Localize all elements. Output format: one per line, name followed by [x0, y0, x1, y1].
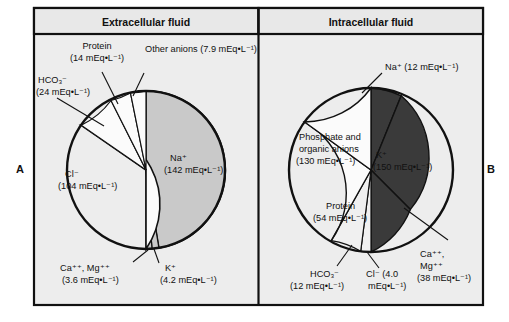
label-a-protein-line2: (14 mEq•L⁻¹) [70, 53, 124, 63]
label-b-phos-line2: organic anions [299, 144, 359, 154]
label-b-hco3-line2: (12 mEq•L⁻¹) [290, 281, 344, 291]
label-b-protein-line2: (54 mEq•L⁻¹) [313, 213, 367, 223]
label-a-camg-line1: Ca⁺⁺, Mg⁺⁺ [60, 263, 110, 273]
body-fluid-composition-figure: Extracellular fluid Intracellular fluid [0, 0, 509, 322]
label-b-phos-line3: (130 mEq•L⁻¹) [296, 156, 355, 166]
label-b-k-line1: K⁺ [376, 150, 387, 160]
panel-b-title: Intracellular fluid [329, 16, 414, 28]
label-a-k-line2: (4.2 mEq•L⁻¹) [160, 275, 217, 285]
label-b-camg-line3: (38 mEq•L⁻¹) [417, 273, 471, 283]
label-a-k-line1: K⁺ [165, 263, 176, 273]
label-b-cl-line1: Cl⁻ (4.0 [366, 269, 398, 279]
label-b-cl-line2: mEq•L⁻¹) [368, 281, 406, 291]
label-a-cl-line2: (104 mEq•L⁻¹) [58, 181, 117, 191]
label-a-other-anions: Other anions (7.9 mEq•L⁻¹) [145, 44, 257, 54]
label-a-hco3-line1: HCO₃⁻ [38, 75, 67, 85]
panel-a-title: Extracellular fluid [102, 16, 190, 28]
label-a-cl-line1: Cl⁻ [65, 169, 79, 179]
label-b-camg-line2: Mg⁺⁺ [420, 261, 443, 271]
label-b-protein-line1: Protein [326, 201, 355, 211]
figure-container: A B Extracellular fluid Intracellular fl… [0, 0, 509, 322]
panel-b-letter: B [487, 163, 495, 175]
label-a-hco3-line2: (24 mEq•L⁻¹) [36, 87, 90, 97]
label-a-na-line1: Na⁺ [170, 153, 187, 163]
label-a-protein-line1: Protein [82, 41, 111, 51]
label-b-na: Na⁺ (12 mEq•L⁻¹) [385, 62, 458, 72]
label-a-na-line2: (142 mEq•L⁻¹) [164, 165, 223, 175]
label-b-camg-line1: Ca⁺⁺, [420, 249, 444, 259]
panel-a-letter: A [16, 163, 24, 175]
label-a-camg-line2: (3.6 mEq•L⁻¹) [62, 275, 119, 285]
label-b-k-line2: (150 mEq•L⁻¹) [373, 162, 432, 172]
label-b-hco3-line1: HCO₃⁻ [310, 269, 339, 279]
label-b-phos-line1: Phosphate and [299, 132, 361, 142]
